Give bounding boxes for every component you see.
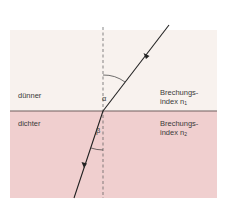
thinner-medium-label: dünner: [18, 91, 41, 100]
denser-medium-label: dichter: [18, 119, 41, 128]
refracted-ray: [74, 111, 103, 198]
index-n2-line2: index n2: [160, 128, 198, 139]
index-n1-line2: index n1: [160, 97, 198, 108]
beta-label: β: [96, 126, 100, 135]
index-n1-line1: Brechungs-: [160, 88, 198, 97]
refractive-index-n2-label: Brechungs- index n2: [160, 119, 198, 139]
alpha-label: α: [102, 94, 106, 103]
refractive-index-n1-label: Brechungs- index n1: [160, 88, 198, 108]
index-n2-line1: Brechungs-: [160, 119, 198, 128]
refraction-angle-arc: [91, 148, 103, 150]
incidence-angle-arc: [103, 75, 125, 82]
